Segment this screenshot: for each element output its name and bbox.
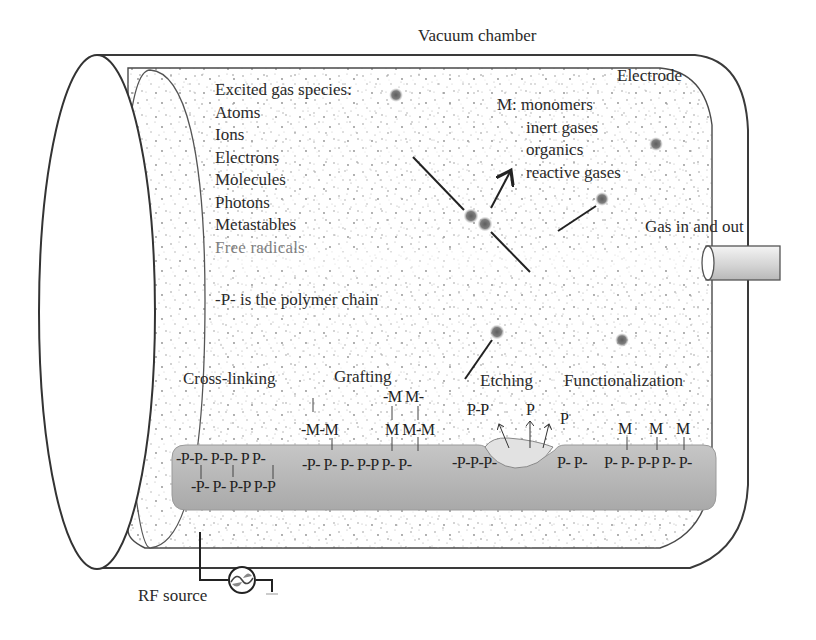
etch-chain-right: P- P-: [557, 455, 587, 471]
gas-port-tube: [702, 246, 780, 280]
chamber-title: Vacuum chamber: [418, 27, 536, 44]
grafting-monomer-left: -M-M: [301, 422, 338, 438]
functional-chain: P- P- P-P P- P-: [604, 455, 692, 471]
functional-group: M: [618, 421, 632, 437]
plasma-chamber-diagram: Vacuum chamber Electrode Gas in and out …: [0, 0, 816, 640]
species-item: Photons: [215, 192, 352, 215]
etch-fragment: P: [560, 411, 568, 427]
etch-chain-left: -P-P-P-: [452, 455, 497, 471]
etch-fragment: P-P: [467, 402, 489, 418]
excited-species-list: Excited gas species: Atoms Ions Electron…: [215, 79, 352, 259]
m-item: monomers: [521, 95, 593, 114]
m-item: reactive gases: [497, 162, 621, 185]
grafting-monomer-right: M M-M: [385, 422, 435, 438]
functional-group: M: [676, 421, 690, 437]
species-heading: Excited gas species:: [215, 79, 352, 102]
crosslink-chain-bottom: -P- P- P-P P-P: [191, 479, 275, 495]
process-label-etching: Etching: [480, 372, 533, 389]
chamber-drawing: [0, 0, 816, 640]
rf-source-symbol: [229, 567, 255, 593]
species-item: Atoms: [215, 102, 352, 125]
etch-fragment: P: [526, 402, 534, 418]
electrode-label: Electrode: [617, 67, 682, 84]
species-item: Molecules: [215, 169, 352, 192]
process-label-crosslinking: Cross-linking: [183, 370, 276, 387]
gas-port-label: Gas in and out: [645, 218, 744, 235]
species-item: Free radicals: [215, 237, 352, 260]
species-item: Electrons: [215, 147, 352, 170]
rf-source-label: RF source: [138, 587, 207, 604]
cylinder-opening: [39, 55, 155, 569]
m-definition-list: M: monomers inert gases organics reactiv…: [497, 94, 621, 184]
crosslink-chain-top: -P-P- P-P- P P-: [176, 451, 265, 467]
process-label-functionalization: Functionalization: [564, 372, 683, 389]
m-prefix: M:: [497, 95, 517, 114]
process-label-grafting: Grafting: [334, 368, 392, 385]
m-item: inert gases: [497, 117, 621, 140]
m-item: organics: [497, 139, 621, 162]
polymer-note: -P- is the polymer chain: [215, 291, 378, 308]
grafting-chain: -P- P- P- P-P P- P-: [302, 457, 412, 473]
grafting-monomer-top: -M M-: [383, 389, 424, 405]
functional-group: M: [649, 421, 663, 437]
species-item: Metastables: [215, 214, 352, 237]
species-item: Ions: [215, 124, 352, 147]
